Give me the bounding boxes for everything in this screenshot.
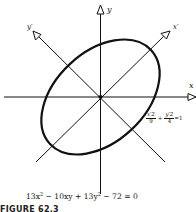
eq-part: − 10xy + 13y <box>43 192 98 201</box>
x-prime-axis-label: x′ <box>173 24 179 31</box>
rotated-equation: x′2 9 + y′2 4 =1 <box>146 112 182 125</box>
x-axis-label: x <box>189 82 194 90</box>
eq-part: 13x <box>26 192 40 201</box>
y-prime-axis-label: y′ <box>27 24 33 31</box>
fraction-y-prime: y′2 4 <box>164 112 174 125</box>
fraction-denominator: 9 <box>149 119 153 125</box>
eq-part: − 72 = 0 <box>101 192 138 201</box>
x-axis-arrow-icon <box>188 94 196 101</box>
ellipse-equation: 13x2 − 10xy + 13y2 − 72 = 0 <box>26 191 138 201</box>
fraction-denominator: 4 <box>168 119 172 125</box>
y-axis-arrow-icon <box>97 5 104 14</box>
equals-one: =1 <box>174 115 182 121</box>
fraction-x-prime: x′2 9 <box>146 112 156 125</box>
y-axis-label: y <box>107 6 112 14</box>
y-prime-axis <box>38 36 165 162</box>
figure-caption: FIGURE 62.3 <box>0 205 59 212</box>
diagram-canvas <box>0 0 196 212</box>
plus-sign: + <box>158 115 163 121</box>
origin-point <box>99 95 103 99</box>
y-prime-axis-arrow-icon <box>33 31 41 40</box>
